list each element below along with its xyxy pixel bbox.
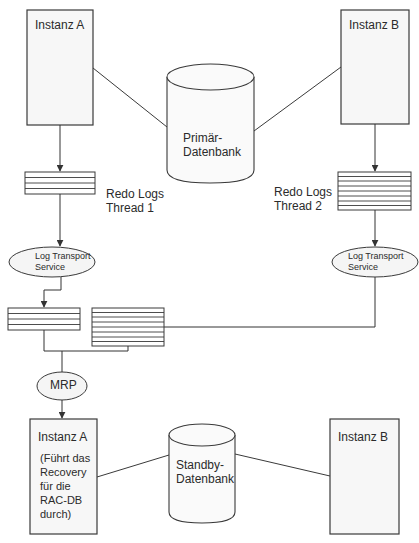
connector-standby-a-db bbox=[97, 455, 169, 477]
primary-instance-b-label: Instanz B bbox=[349, 19, 399, 33]
primary-database-label: Primär- Datenbank bbox=[183, 132, 241, 160]
standby-instance-a-note: (Führt das Recovery für die RAC-DB durch… bbox=[40, 451, 90, 521]
connector-log1-merge bbox=[44, 330, 62, 351]
connector-log2-merge bbox=[62, 346, 128, 351]
arrow-lts1-to-standby-log1 bbox=[44, 277, 61, 307]
connector-lts2-to-standby-log2 bbox=[164, 277, 375, 327]
mrp-label: MRP bbox=[50, 379, 77, 393]
connector-a-primary-db bbox=[93, 68, 167, 127]
log-transport-service-1-label: Log Transport Service bbox=[35, 251, 91, 273]
redo-logs-thread1-label: Redo Logs Thread 1 bbox=[106, 188, 164, 216]
standby-logs-thread1-stack bbox=[8, 308, 80, 330]
connector-standby-b-db bbox=[235, 454, 330, 476]
standby-instance-a-label: Instanz A bbox=[38, 431, 87, 445]
primary-database-cylinder bbox=[167, 64, 254, 183]
standby-database-label: Standby- Datenbank bbox=[176, 459, 234, 487]
redo-logs-thread2-label: Redo Logs Thread 2 bbox=[274, 186, 332, 214]
standby-instance-b-label: Instanz B bbox=[338, 431, 388, 445]
log-transport-service-2-label: Log Transport Service bbox=[348, 251, 404, 273]
primary-instance-a-label: Instanz A bbox=[35, 19, 84, 33]
standby-logs-thread2-stack bbox=[92, 308, 164, 346]
redo-logs-thread2-stack bbox=[338, 172, 411, 210]
connector-b-primary-db bbox=[254, 67, 341, 131]
redo-logs-thread1-stack bbox=[25, 172, 95, 194]
